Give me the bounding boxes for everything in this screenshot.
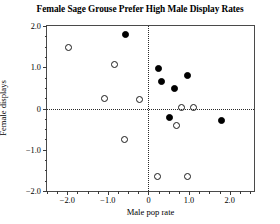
y-tick-major [43, 150, 47, 151]
y-tick-minor [45, 119, 48, 120]
y-tick-label: 1.0 [31, 63, 41, 72]
x-tick-major [148, 191, 149, 195]
y-tick-minor [45, 129, 48, 130]
data-point-open [136, 96, 143, 103]
data-point-open [121, 136, 128, 143]
y-tick-minor [45, 36, 48, 37]
y-tick-label: −1.0 [26, 145, 41, 154]
chart-title: Female Sage Grouse Prefer High Male Disp… [0, 4, 280, 14]
y-tick-label: 0 [37, 104, 41, 113]
x-tick-label: 1.0 [184, 196, 194, 205]
data-point-open [178, 104, 185, 111]
y-tick-minor [45, 160, 48, 161]
x-tick-minor [138, 191, 139, 194]
y-tick-minor [45, 47, 48, 48]
data-point-open [184, 173, 191, 180]
y-tick-major [43, 67, 47, 68]
y-tick-minor [45, 78, 48, 79]
y-tick-minor [45, 139, 48, 140]
data-point-open [101, 95, 108, 102]
x-tick-minor [57, 191, 58, 194]
x-tick-minor [128, 191, 129, 194]
data-point-closed [171, 85, 178, 92]
x-tick-minor [118, 191, 119, 194]
x-tick-minor [88, 191, 89, 194]
data-point-closed [158, 78, 165, 85]
y-tick-label: 2.0 [31, 22, 41, 31]
data-point-open [190, 104, 197, 111]
x-tick-label: 0 [146, 196, 150, 205]
zero-reference-line-vertical [148, 26, 149, 191]
y-tick-minor [45, 170, 48, 171]
x-tick-minor [179, 191, 180, 194]
data-point-open [111, 61, 118, 68]
data-point-closed [184, 72, 191, 79]
x-tick-major [67, 191, 68, 195]
y-tick-minor [45, 88, 48, 89]
x-axis-title: Male pop rate [46, 207, 255, 217]
x-tick-major [108, 191, 109, 195]
x-tick-minor [220, 191, 221, 194]
x-tick-minor [240, 191, 241, 194]
x-tick-minor [98, 191, 99, 194]
x-tick-minor [199, 191, 200, 194]
y-tick-major [43, 191, 47, 192]
y-tick-label: −2.0 [26, 187, 41, 196]
y-tick-minor [45, 57, 48, 58]
data-point-open [65, 44, 72, 51]
data-point-closed [155, 65, 162, 72]
zero-reference-line-horizontal [47, 109, 254, 110]
x-tick-label: 2.0 [224, 196, 234, 205]
y-axis-title: Female displays [0, 80, 8, 136]
y-tick-minor [45, 98, 48, 99]
data-point-closed [218, 117, 225, 124]
x-tick-major [189, 191, 190, 195]
data-point-closed [122, 31, 129, 38]
scatter-plot-figure: Female Sage Grouse Prefer High Male Disp… [0, 0, 280, 224]
x-tick-major [230, 191, 231, 195]
x-tick-minor [169, 191, 170, 194]
plot-area: 2.01.00−1.0−2.0−2.0−1.001.02.0 [46, 25, 255, 192]
x-tick-minor [47, 191, 48, 194]
data-point-open [173, 122, 180, 129]
y-tick-major [43, 26, 47, 27]
x-tick-minor [209, 191, 210, 194]
y-tick-minor [45, 181, 48, 182]
y-tick-major [43, 109, 47, 110]
data-point-closed [166, 114, 173, 121]
x-tick-label: −1.0 [100, 196, 115, 205]
x-tick-label: −2.0 [60, 196, 75, 205]
x-tick-minor [159, 191, 160, 194]
data-point-open [154, 173, 161, 180]
x-tick-minor [77, 191, 78, 194]
x-tick-minor [250, 191, 251, 194]
